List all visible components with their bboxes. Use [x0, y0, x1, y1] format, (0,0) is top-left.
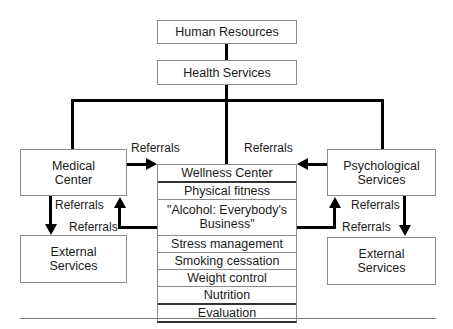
program-weight-control: Weight control [158, 270, 296, 287]
psych-to-external-arrowhead-icon [399, 225, 411, 236]
medical-to-center-label: Referrals [131, 142, 180, 155]
right-external-services-box: External Services [327, 237, 436, 285]
psych-services-line1: Psychological [343, 159, 419, 173]
bottom-rule-divider [20, 318, 436, 319]
health-services-box: Health Services [157, 60, 297, 85]
program-alcohol-line1: "Alcohol: Everybody's [158, 203, 296, 217]
center-to-medical-arrowhead-icon [114, 197, 126, 208]
psych-to-center-label: Referrals [244, 142, 293, 155]
hr-to-health-connector [225, 44, 228, 60]
human-resources-label: Human Resources [175, 25, 279, 39]
psych-to-external-label: Referrals [351, 199, 400, 212]
bus-to-medical-connector [71, 99, 74, 149]
program-alcohol-line2: Business" [158, 217, 296, 231]
program-nutrition: Nutrition [158, 287, 296, 305]
center-to-medical-label: Referrals [69, 221, 118, 234]
left-external-line1: External [51, 245, 97, 259]
medical-center-line2: Center [55, 173, 93, 187]
program-alcohol: "Alcohol: Everybody's Business" [158, 200, 296, 236]
center-to-psych-vertical [333, 208, 336, 229]
psych-to-external-line [403, 196, 406, 225]
left-external-services-box: External Services [20, 235, 127, 283]
medical-to-external-label: Referrals [55, 199, 104, 212]
medical-to-center-line [127, 163, 147, 166]
bus-to-psych-connector [381, 99, 384, 149]
center-to-medical-vertical [118, 208, 121, 229]
psych-to-center-line [307, 163, 327, 166]
right-external-line2: Services [358, 261, 406, 275]
medical-to-external-arrowhead-icon [45, 224, 57, 235]
health-services-label: Health Services [183, 66, 271, 80]
medical-center-line1: Medical [52, 159, 95, 173]
right-external-line1: External [359, 247, 405, 261]
human-resources-box: Human Resources [157, 20, 297, 44]
program-smoking-cessation: Smoking cessation [158, 253, 296, 270]
wellness-center-header: Wellness Center [158, 165, 296, 183]
center-to-psych-label: Referrals [342, 221, 391, 234]
center-to-psych-arrowhead-icon [329, 197, 341, 208]
medical-to-external-line [49, 196, 52, 224]
top-bus-line [71, 99, 384, 102]
center-to-medical-horizontal [118, 226, 157, 229]
health-to-bus-connector [225, 85, 228, 165]
psych-to-center-arrowhead-icon [297, 158, 308, 170]
medical-center-box: Medical Center [20, 149, 127, 196]
medical-to-center-arrowhead-icon [146, 158, 157, 170]
program-physical-fitness: Physical fitness [158, 183, 296, 200]
wellness-center-stack: Wellness Center Physical fitness "Alcoho… [157, 164, 297, 323]
program-stress-management: Stress management [158, 236, 296, 253]
psychological-services-box: Psychological Services [327, 149, 436, 196]
psych-services-line2: Services [358, 173, 406, 187]
left-external-line2: Services [50, 259, 98, 273]
center-to-psych-horizontal [296, 226, 336, 229]
